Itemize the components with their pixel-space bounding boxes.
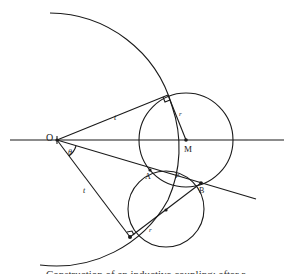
figure-caption: Construction of an inductive coupling: a… [0, 268, 291, 274]
tangent-line-upper [57, 95, 168, 140]
label-theta: θ [68, 148, 72, 157]
point-M-marker [184, 138, 188, 142]
radius-upper [168, 95, 186, 140]
point-B-marker [199, 181, 203, 185]
label-r-lower: r [149, 226, 152, 234]
label-O: O [46, 132, 53, 143]
secant-line-OA [57, 140, 256, 199]
label-A: A [145, 172, 151, 181]
label-P: P [174, 172, 180, 180]
geometry-diagram: O M A B P θ t t r r [0, 0, 291, 274]
point-T-lower-marker [128, 235, 132, 239]
label-t-lower: t [83, 186, 86, 195]
label-t-upper: t [114, 113, 117, 122]
label-r-upper: r [179, 110, 182, 118]
point-lower-centre-marker [164, 208, 167, 211]
label-M: M [184, 144, 192, 154]
label-B: B [199, 186, 204, 195]
